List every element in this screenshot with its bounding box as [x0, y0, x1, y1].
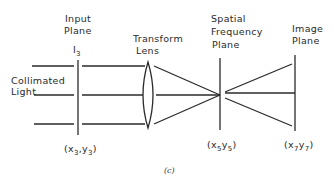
spatial-frequency-plane: Spatial Frequency Plane (x5y5) [207, 13, 263, 153]
svg-text:Light: Light [11, 86, 36, 97]
svg-text:Plane: Plane [292, 35, 320, 46]
svg-text:Collimated: Collimated [11, 75, 65, 86]
svg-text:Plane: Plane [212, 39, 240, 50]
svg-text:Plane: Plane [64, 25, 92, 36]
figure-caption: (c) [164, 166, 175, 175]
image-plane: Image Plane (x7y7) [284, 23, 323, 153]
optical-system-diagram: Collimated Light Input Plane I3 (x3,y3) … [0, 0, 334, 183]
lens-shape [143, 62, 153, 128]
svg-text:Lens: Lens [136, 45, 159, 56]
image-plane-coords: (x7y7) [284, 139, 313, 153]
input-plane-coords: (x3,y3) [64, 143, 97, 157]
svg-text:Image: Image [292, 23, 323, 34]
object-rays [82, 66, 145, 124]
svg-text:Spatial: Spatial [211, 13, 246, 24]
input-plane: Input Plane I3 (x3,y3) [64, 13, 97, 157]
transform-lens: Transform Lens [132, 33, 183, 128]
svg-text:Input: Input [65, 13, 91, 24]
spatial-frequency-coords: (x5y5) [207, 139, 236, 153]
converging-rays [154, 66, 220, 124]
svg-text:Transform: Transform [132, 33, 183, 44]
collimated-light-label: Collimated Light [11, 75, 65, 97]
input-plane-symbol: I3 [73, 44, 81, 58]
diverging-rays [225, 64, 295, 126]
svg-text:Frequency: Frequency [211, 26, 263, 37]
